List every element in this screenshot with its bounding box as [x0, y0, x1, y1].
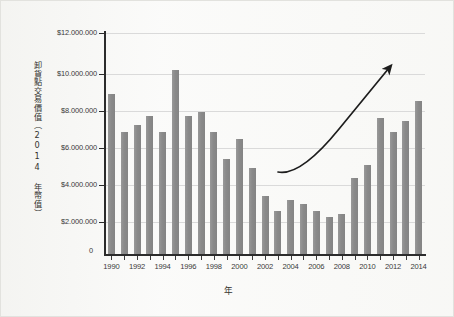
x-tick-mark-2010	[367, 256, 368, 260]
x-tick-label-1996: 1996	[175, 262, 201, 271]
x-tick-mark-2000	[239, 256, 240, 260]
x-tick-label-1992: 1992	[124, 262, 150, 271]
x-tick-mark-2014	[419, 256, 420, 260]
x-tick-mark-2005	[303, 256, 304, 260]
x-tick-mark-2003	[278, 256, 279, 260]
bar-1996	[185, 116, 192, 254]
x-tick-mark-2002	[265, 256, 266, 260]
x-tick-mark-2013	[406, 256, 407, 260]
bar-1990	[108, 94, 115, 254]
x-tick-label-1994: 1994	[150, 262, 176, 271]
bar-1994	[159, 132, 166, 254]
bar-2007	[326, 217, 333, 254]
x-tick-mark-2011	[380, 256, 381, 260]
bar-2000	[236, 139, 243, 254]
x-tick-mark-1992	[137, 256, 138, 260]
bar-2001	[249, 168, 256, 254]
bars-layer	[105, 33, 425, 254]
bar-2002	[262, 196, 269, 254]
bar-2011	[377, 118, 384, 254]
x-tick-mark-1998	[214, 256, 215, 260]
chart-figure: 卸貨點交易價值（2014 年幣值） $12.000.000 $10.000.00…	[0, 0, 454, 317]
x-tick-mark-1997	[201, 256, 202, 260]
x-axis-title: 年	[1, 284, 454, 296]
bar-1998	[210, 132, 217, 254]
bar-1995	[172, 70, 179, 254]
y-tick-label-4m: $4.000.000	[61, 181, 97, 189]
bar-2004	[287, 200, 294, 254]
x-tick-label-2014: 2014	[406, 262, 432, 271]
bar-1992	[134, 125, 141, 254]
y-tick-label-zero: 0	[89, 246, 93, 255]
x-tick-mark-2009	[355, 256, 356, 260]
x-tick-mark-1993	[150, 256, 151, 260]
y-tick-label-6m: $6.000.000	[61, 144, 97, 152]
bar-2013	[402, 121, 409, 254]
y-tick-label-12m: $12.000.000	[57, 29, 97, 37]
x-tick-mark-2007	[329, 256, 330, 260]
bar-2014	[415, 101, 422, 254]
bar-2010	[364, 165, 371, 254]
bar-2005	[300, 204, 307, 254]
bar-1997	[198, 112, 205, 254]
x-tick-label-2002: 2002	[252, 262, 278, 271]
y-tick-label-2m: $2.000.000	[61, 218, 97, 226]
y-tick-label-8m: $8.000.000	[61, 107, 97, 115]
x-tick-mark-1999	[227, 256, 228, 260]
x-tick-mark-1991	[124, 256, 125, 260]
y-axis-tick-labels: $12.000.000 $10.000.000 $8.000.000 $6.00…	[31, 1, 97, 261]
x-tick-mark-2012	[393, 256, 394, 260]
x-tick-mark-2001	[252, 256, 253, 260]
bar-2012	[390, 132, 397, 254]
x-tick-mark-1990	[111, 256, 112, 260]
x-tick-label-2006: 2006	[303, 262, 329, 271]
x-tick-mark-1994	[163, 256, 164, 260]
x-tick-label-2004: 2004	[278, 262, 304, 271]
x-tick-mark-2006	[316, 256, 317, 260]
bar-2009	[351, 178, 358, 254]
x-tick-label-1998: 1998	[201, 262, 227, 271]
x-tick-label-2012: 2012	[380, 262, 406, 271]
x-tick-label-2000: 2000	[226, 262, 252, 271]
bar-1999	[223, 159, 230, 254]
x-tick-mark-1995	[175, 256, 176, 260]
bar-2006	[313, 211, 320, 254]
x-tick-label-2008: 2008	[329, 262, 355, 271]
y-tick-label-10m: $10.000.000	[57, 70, 97, 78]
x-tick-label-1990: 1990	[98, 262, 124, 271]
x-tick-mark-2004	[291, 256, 292, 260]
bar-1993	[146, 116, 153, 254]
x-tick-mark-1996	[188, 256, 189, 260]
bar-2008	[338, 214, 345, 254]
bar-2003	[274, 211, 281, 254]
bar-1991	[121, 132, 128, 254]
x-tick-label-2010: 2010	[354, 262, 380, 271]
x-tick-mark-2008	[342, 256, 343, 260]
